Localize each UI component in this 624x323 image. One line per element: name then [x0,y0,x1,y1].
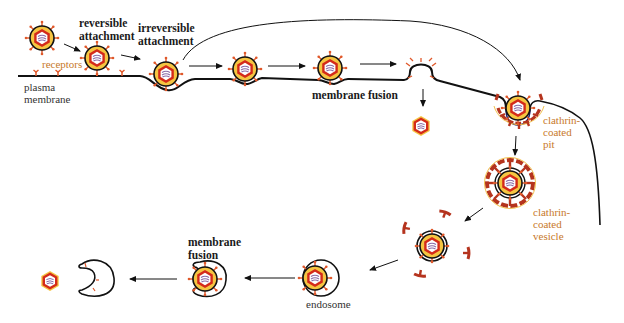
label-irreversible-attachment: irreversible attachment [138,22,195,48]
label-membrane-fusion-top: membrane fusion [312,89,398,102]
endosome [298,260,339,296]
label-clathrin-coated-pit: clathrin- coated pit [543,114,580,150]
released-capsid-top [412,116,429,136]
uncoating-vesicle [403,210,469,277]
plasma-membrane [18,65,506,111]
fusing-endosome [188,261,227,296]
label-membrane-fusion-bottom: membrane fusion [188,236,241,262]
arrows [64,20,520,279]
reversible-attached-virion [80,41,115,76]
clathrin-coated-pit [494,91,544,129]
label-plasma-membrane: plasma membrane [24,81,70,105]
label-receptors: receptors [42,58,82,70]
virus-entry-diagram: reversible attachment irreversible attac… [0,0,624,323]
hemifusion-virion [228,52,263,87]
clathrin-coated-vesicle [485,158,536,209]
diagram-canvas [0,0,624,323]
released-capsid-bottom [41,271,58,291]
label-reversible-attachment: reversible attachment [79,17,135,43]
irreversible-attached-virion [149,57,184,92]
fusing-virion [313,51,348,86]
free-virion [25,21,60,56]
label-endosome: endosome [306,298,351,310]
label-clathrin-coated-vesicle: clathrin- coated vesicle [533,206,570,242]
empty-endosome [79,260,114,296]
